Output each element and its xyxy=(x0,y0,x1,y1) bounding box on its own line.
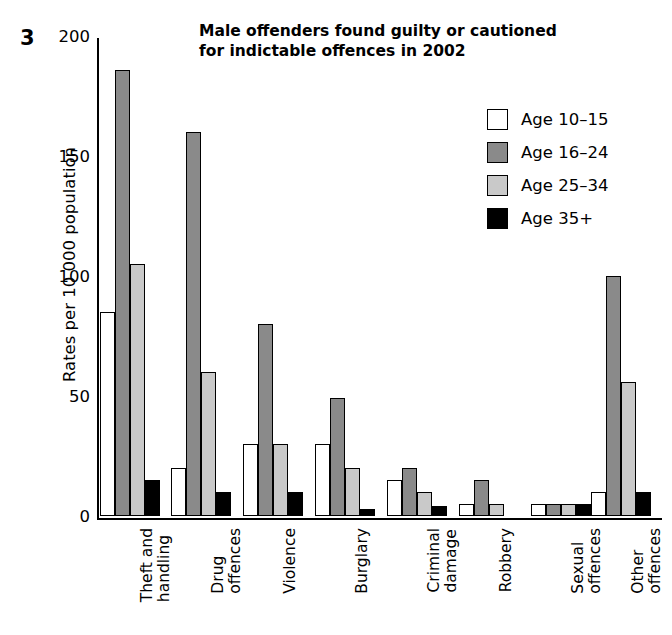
x-axis-category-label-line: Burglary xyxy=(354,528,371,594)
x-axis-category-label: Burglary xyxy=(354,528,371,594)
bar[interactable] xyxy=(474,480,489,516)
bar-group: Criminaldamage xyxy=(387,36,447,516)
legend-item[interactable]: Age 10–15 xyxy=(487,103,608,136)
x-axis-category-label: Robbery xyxy=(498,528,515,592)
x-axis-category-label: Theft andhandling xyxy=(139,528,174,602)
bar[interactable] xyxy=(576,504,591,516)
bar[interactable] xyxy=(621,382,636,516)
legend-swatch xyxy=(487,208,508,229)
y-axis-line xyxy=(97,38,99,519)
bar[interactable] xyxy=(636,492,651,516)
bar[interactable] xyxy=(145,480,160,516)
bar[interactable] xyxy=(459,504,474,516)
legend-label: Age 10–15 xyxy=(521,110,608,129)
bars xyxy=(171,36,231,516)
bar-group: Theft andhandling xyxy=(100,36,160,516)
x-axis-category-label-line: offences xyxy=(647,528,664,594)
legend-label: Age 16–24 xyxy=(521,143,608,162)
x-axis-category-label-line: Sexual xyxy=(570,528,587,594)
y-axis-tick-50: 50 xyxy=(0,387,90,406)
legend-label: Age 35+ xyxy=(521,209,593,228)
x-axis-line xyxy=(97,518,662,520)
y-axis-tick-0: 0 xyxy=(0,507,90,526)
bar[interactable] xyxy=(360,509,375,516)
bar[interactable] xyxy=(315,444,330,516)
bar[interactable] xyxy=(432,506,447,516)
x-axis-category-label-line: Criminal xyxy=(426,528,443,593)
x-axis-category-label: Drugoffences xyxy=(210,528,245,594)
bar[interactable] xyxy=(258,324,273,516)
x-axis-category-label: Sexualoffences xyxy=(570,528,605,594)
y-axis-tick-100: 100 xyxy=(0,267,90,286)
bar[interactable] xyxy=(100,312,115,516)
bar[interactable] xyxy=(330,398,345,516)
bar-chart-figure: 3 Male offenders found guilty or caution… xyxy=(0,0,672,635)
x-axis-category-label-line: handling xyxy=(156,528,173,602)
chart-legend: Age 10–15Age 16–24Age 25–34Age 35+ xyxy=(487,103,608,235)
x-axis-category-label: Otheroffences xyxy=(630,528,665,594)
bars xyxy=(387,36,447,516)
legend-swatch xyxy=(487,175,508,196)
legend-item[interactable]: Age 16–24 xyxy=(487,136,608,169)
legend-swatch xyxy=(487,109,508,130)
bar[interactable] xyxy=(417,492,432,516)
bars xyxy=(100,36,160,516)
bar[interactable] xyxy=(561,504,576,516)
x-axis-category-label-line: Violence xyxy=(282,528,299,594)
x-axis-category-label: Criminaldamage xyxy=(426,528,461,593)
x-axis-category-label-line: Robbery xyxy=(498,528,515,592)
bars xyxy=(315,36,375,516)
legend-swatch xyxy=(487,142,508,163)
legend-label: Age 25–34 xyxy=(521,176,608,195)
x-axis-category-label-line: damage xyxy=(443,528,460,593)
x-axis-category-label-line: Theft and xyxy=(139,528,156,602)
x-axis-category-label-line: Drug xyxy=(210,528,227,594)
bar[interactable] xyxy=(243,444,258,516)
bar[interactable] xyxy=(288,492,303,516)
legend-item[interactable]: Age 25–34 xyxy=(487,169,608,202)
bar[interactable] xyxy=(186,132,201,516)
bar[interactable] xyxy=(171,468,186,516)
bar[interactable] xyxy=(531,504,546,516)
bar-group: Violence xyxy=(243,36,303,516)
bar[interactable] xyxy=(201,372,216,516)
bars xyxy=(243,36,303,516)
bar[interactable] xyxy=(606,276,621,516)
y-axis-tick-200: 200 xyxy=(0,27,90,46)
bar[interactable] xyxy=(489,504,504,516)
bar[interactable] xyxy=(387,480,402,516)
bar[interactable] xyxy=(402,468,417,516)
x-axis-category-label-line: offences xyxy=(587,528,604,594)
bar[interactable] xyxy=(115,70,130,516)
y-axis-tick-150: 150 xyxy=(0,147,90,166)
bar[interactable] xyxy=(130,264,145,516)
bar[interactable] xyxy=(273,444,288,516)
legend-item[interactable]: Age 35+ xyxy=(487,202,608,235)
bar[interactable] xyxy=(546,504,561,516)
bar-group: Drugoffences xyxy=(171,36,231,516)
bar[interactable] xyxy=(345,468,360,516)
y-axis-title: Rates per 10 000 population xyxy=(60,125,79,405)
x-axis-category-label-line: Other xyxy=(630,528,647,594)
bar-group: Burglary xyxy=(315,36,375,516)
x-axis-category-label-line: offences xyxy=(227,528,244,594)
bar[interactable] xyxy=(591,492,606,516)
x-axis-category-label: Violence xyxy=(282,528,299,594)
bar[interactable] xyxy=(216,492,231,516)
